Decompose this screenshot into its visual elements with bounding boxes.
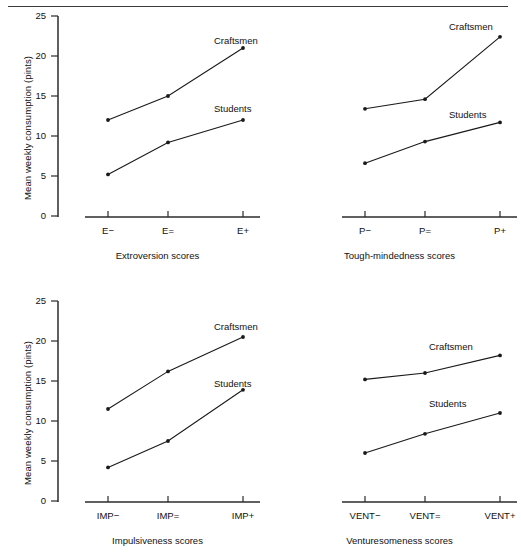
- data-point-marker: [166, 141, 170, 145]
- series-line-craftsmen: [365, 355, 500, 379]
- data-point-marker: [106, 407, 110, 411]
- x-tick-label: IMP−: [78, 511, 138, 521]
- series-label-students-bottom-left: Students: [214, 379, 252, 389]
- data-point-marker: [498, 411, 502, 415]
- data-point-marker: [498, 35, 502, 39]
- series-label-students-top-right: Students: [449, 110, 487, 120]
- panel-tough-mindedness: P−P=P+ Tough-mindedness scores Craftsmen…: [257, 0, 514, 280]
- series-line-students: [108, 120, 243, 174]
- x-axis-title-top-left: Extroversion scores: [50, 251, 265, 261]
- data-point-marker: [423, 432, 427, 436]
- series-label-craftsmen-bottom-left: Craftsmen: [214, 322, 258, 332]
- data-point-marker: [363, 161, 367, 165]
- x-tick-label: IMP=: [138, 511, 198, 521]
- x-tick-label: E=: [138, 226, 198, 236]
- panel-extroversion: Mean weekly consumption (pints) 05101520…: [0, 0, 257, 280]
- x-tick-label: VENT+: [470, 511, 521, 521]
- series-label-students-top-left: Students: [214, 104, 252, 114]
- data-point-marker: [166, 370, 170, 374]
- series-label-students-bottom-right: Students: [429, 399, 467, 409]
- data-point-marker: [423, 140, 427, 144]
- data-point-marker: [363, 107, 367, 111]
- series-line-students: [365, 122, 500, 163]
- series-line-craftsmen: [365, 37, 500, 109]
- data-point-marker: [241, 46, 245, 50]
- data-point-marker: [166, 439, 170, 443]
- series-label-craftsmen-bottom-right: Craftsmen: [429, 342, 473, 352]
- data-point-marker: [241, 335, 245, 339]
- x-tick-label: P+: [470, 226, 521, 236]
- x-axis-title-bottom-right: Venturesomeness scores: [292, 536, 507, 546]
- panel-venturesomeness: VENT−VENT=VENT+ Venturesomeness scores C…: [257, 285, 514, 557]
- data-point-marker: [423, 371, 427, 375]
- series-line-students: [108, 390, 243, 468]
- x-tick-label: P−: [335, 226, 395, 236]
- series-line-craftsmen: [108, 337, 243, 409]
- series-line-students: [365, 413, 500, 453]
- data-point-marker: [498, 121, 502, 125]
- x-tick-label: P=: [395, 226, 455, 236]
- data-point-marker: [423, 97, 427, 101]
- x-axis-title-bottom-left: Impulsiveness scores: [50, 536, 265, 546]
- data-point-marker: [241, 118, 245, 122]
- x-tick-label: VENT−: [335, 511, 395, 521]
- series-label-craftsmen-top-left: Craftsmen: [214, 36, 258, 46]
- data-point-marker: [106, 466, 110, 470]
- x-tick-label: VENT=: [395, 511, 455, 521]
- x-axis-title-top-right: Tough-mindedness scores: [292, 251, 507, 261]
- data-point-marker: [363, 451, 367, 455]
- data-point-marker: [166, 94, 170, 98]
- x-tick-label: E−: [78, 226, 138, 236]
- series-label-craftsmen-top-right: Craftsmen: [449, 22, 493, 32]
- panel-impulsiveness: Mean weekly consumption (pints) 05101520…: [0, 285, 257, 557]
- plot-area-top-right: [257, 0, 514, 280]
- data-point-marker: [498, 354, 502, 358]
- data-point-marker: [106, 173, 110, 177]
- data-point-marker: [106, 118, 110, 122]
- data-point-marker: [363, 378, 367, 382]
